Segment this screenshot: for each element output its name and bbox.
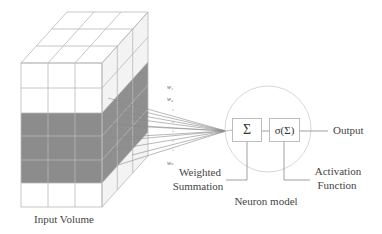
output-label: Output bbox=[333, 124, 364, 137]
weight-label-w2: w₂ bbox=[167, 96, 173, 102]
summation-label-line1: Weighted bbox=[179, 166, 221, 179]
activation-box: σ(Σ) bbox=[269, 118, 300, 142]
summation-symbol: Σ bbox=[243, 122, 251, 138]
activation-label-line1: Activation bbox=[315, 165, 361, 178]
activation-symbol: σ(Σ) bbox=[275, 124, 295, 136]
input-volume-cube bbox=[21, 12, 148, 207]
summation-box: Σ bbox=[232, 118, 262, 142]
weight-label-wn: wₙ bbox=[167, 159, 173, 166]
summation-label-line2: Summation bbox=[173, 180, 224, 193]
activation-label-line2: Function bbox=[317, 179, 356, 192]
diagram-canvas bbox=[0, 0, 382, 234]
neuron-model-label: Neuron model bbox=[234, 195, 297, 208]
weight-label-w1: w₁ bbox=[167, 84, 173, 90]
input-volume-label: Input Volume bbox=[34, 213, 94, 226]
cnn-neuron-diagram: w₁ w₂ wₙ Σ σ(Σ) Output Weighted Summatio… bbox=[0, 0, 382, 234]
